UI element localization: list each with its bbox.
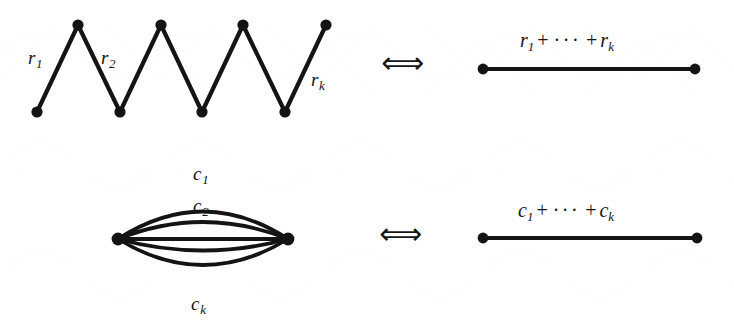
- r-1-label: r1: [28, 48, 43, 70]
- vertex: [196, 106, 207, 117]
- vertex: [478, 64, 489, 75]
- vertex: [320, 19, 331, 30]
- ellipsis: ···: [551, 199, 582, 221]
- c-sum-label: c1+···+ck: [518, 200, 614, 223]
- c-2-subscript: 2: [202, 204, 209, 219]
- r-2-base: r: [101, 47, 109, 68]
- vertex: [114, 106, 125, 117]
- r-sum-last-subscript: k: [608, 39, 614, 54]
- vertex: [112, 233, 125, 246]
- plus-operator: +: [534, 29, 551, 51]
- vertex: [72, 19, 83, 30]
- vertex: [692, 233, 703, 244]
- c-1-label: c1: [193, 164, 209, 186]
- c-k-label: ck: [191, 294, 206, 316]
- vertex: [282, 233, 295, 246]
- r-2-subscript: 2: [109, 56, 116, 71]
- parallel-result-edge: [478, 233, 703, 244]
- c-1-subscript: 1: [202, 172, 209, 187]
- c-sum-last-subscript: k: [608, 209, 614, 224]
- r-k-subscript: k: [319, 78, 325, 93]
- vertex: [237, 19, 248, 30]
- c-sum-last-base: c: [599, 199, 608, 221]
- vertex: [279, 106, 290, 117]
- ellipsis: ···: [552, 29, 583, 51]
- equivalence-arrow-bottom: ⟺: [379, 219, 422, 249]
- series-result-edge: [478, 64, 701, 75]
- r-k-label: rk: [311, 70, 325, 92]
- c-2-base: c: [193, 195, 202, 216]
- plus-operator: +: [583, 29, 600, 51]
- r-sum-label: r1+···+rk: [520, 30, 614, 53]
- r-1-base: r: [28, 47, 36, 68]
- r-1-subscript: 1: [36, 56, 43, 71]
- figure-canvas: r1 r2 rk ⟺ r1+···+rk c1 c2 ck ⟺ c1+···+c…: [0, 0, 734, 330]
- vertex: [155, 19, 166, 30]
- zigzag-graph: [31, 19, 331, 117]
- r-k-base: r: [311, 69, 319, 90]
- vertex: [690, 64, 701, 75]
- r-2-label: r2: [101, 48, 116, 70]
- vertex: [31, 106, 42, 117]
- c-1-base: c: [193, 163, 202, 184]
- zigzag-edges: [37, 25, 326, 112]
- plus-operator: +: [533, 199, 550, 221]
- c-sum-first-base: c: [518, 199, 527, 221]
- plus-operator: +: [582, 199, 599, 221]
- c-k-subscript: k: [200, 302, 206, 317]
- c-2-label: c2: [193, 196, 209, 218]
- equivalence-arrow-top: ⟺: [381, 48, 424, 78]
- r-sum-last-base: r: [600, 29, 608, 51]
- c-k-base: c: [191, 293, 200, 314]
- r-sum-first-base: r: [520, 29, 528, 51]
- vertex: [478, 233, 489, 244]
- multiedge-graph: [112, 212, 295, 266]
